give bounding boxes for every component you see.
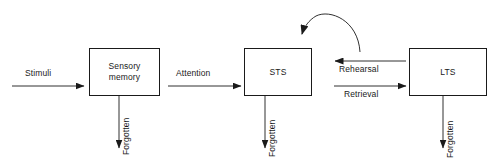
rehearsal-loop-curved-arrow — [302, 14, 360, 52]
edge-label-forgotten-sts: Forgotten — [267, 120, 277, 157]
node-sensory-memory-label: Sensory memory — [109, 61, 141, 83]
edge-label-forgotten-lts: Forgotten — [445, 121, 455, 158]
edge-label-retrieval: Retrieval — [344, 89, 378, 99]
node-sts: STS — [244, 48, 312, 96]
edge-label-stimuli: Stimuli — [25, 68, 51, 78]
node-sts-label: STS — [270, 67, 287, 78]
node-lts: LTS — [409, 48, 487, 96]
node-lts-label: LTS — [440, 67, 455, 78]
memory-model-diagram: Sensory memory STS LTS Stimuli Attention… — [0, 0, 494, 163]
node-sensory-memory: Sensory memory — [89, 48, 160, 96]
edge-label-forgotten-sensory: Forgotten — [121, 118, 131, 155]
edge-label-attention: Attention — [176, 68, 210, 78]
edge-label-rehearsal: Rehearsal — [339, 64, 379, 74]
